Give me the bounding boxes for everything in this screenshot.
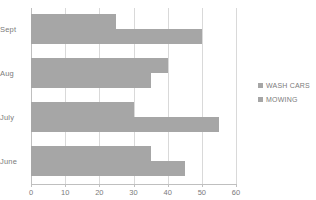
legend-item[interactable]: MOWING [258, 96, 310, 103]
plot-area [31, 8, 236, 184]
bar [31, 102, 134, 117]
bar [31, 29, 202, 44]
bar [31, 161, 185, 176]
x-tick-label-30: 30 [124, 188, 144, 197]
x-tick-label-40: 40 [158, 188, 178, 197]
x-tick-60 [236, 184, 237, 187]
legend-label: WASH CARS [266, 82, 310, 89]
bars-layer [31, 8, 236, 184]
x-tick-label-60: 60 [226, 188, 246, 197]
category-label-aug: Aug [0, 69, 28, 78]
bar-chart: SeptAugJulyJune 0102030405060 WASH CARSM… [0, 0, 316, 200]
category-label-sept: Sept [0, 25, 28, 34]
category-label-july: July [0, 113, 28, 122]
x-tick-10 [65, 184, 66, 187]
bar [31, 14, 116, 29]
legend-swatch-icon [258, 97, 263, 102]
x-tick-50 [202, 184, 203, 187]
x-tick-40 [168, 184, 169, 187]
x-tick-label-10: 10 [55, 188, 75, 197]
bar-group [31, 96, 236, 140]
legend-label: MOWING [266, 96, 298, 103]
legend-swatch-icon [258, 83, 263, 88]
x-tick-label-0: 0 [21, 188, 41, 197]
x-tick-20 [99, 184, 100, 187]
x-tick-0 [31, 184, 32, 187]
bar [31, 73, 151, 88]
legend: WASH CARSMOWING [258, 82, 310, 110]
bar [31, 117, 219, 132]
x-tick-label-20: 20 [89, 188, 109, 197]
bar [31, 58, 168, 73]
x-tick-label-50: 50 [192, 188, 212, 197]
bar-group [31, 52, 236, 96]
category-label-june: June [0, 157, 28, 166]
x-tick-30 [134, 184, 135, 187]
bar [31, 146, 151, 161]
gridline-60 [236, 8, 237, 184]
bar-group [31, 140, 236, 184]
bar-group [31, 8, 236, 52]
legend-item[interactable]: WASH CARS [258, 82, 310, 89]
